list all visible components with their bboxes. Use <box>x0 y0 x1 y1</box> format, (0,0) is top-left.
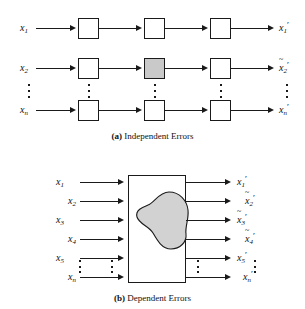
arrowhead-b-in-4 <box>118 236 124 242</box>
wire-b-out-4 <box>186 239 227 240</box>
arrowhead-b-in-2 <box>118 198 124 204</box>
output-label-b-2: ~x2′ <box>245 196 255 207</box>
arrowhead-a-r2-s0 <box>70 65 76 71</box>
stage-box-a-r1-c2 <box>144 18 165 39</box>
arrowhead-b-in-1 <box>118 179 124 185</box>
wire-b-in-5 <box>80 258 120 259</box>
stage-box-a-r2-c3 <box>210 58 231 79</box>
wire-a-r2-s3 <box>231 68 270 69</box>
caption-panel-b: (b) Dependent Errors <box>0 293 305 303</box>
dependency-blob <box>133 190 193 252</box>
output-label-a-n: xn′ <box>279 105 289 116</box>
caption-panel-a: (a) Independent Errors <box>0 131 305 141</box>
arrowhead-b-out-n <box>225 274 231 280</box>
wire-a-r2-s0 <box>36 68 72 69</box>
ellipsis-a-col0 <box>27 84 30 98</box>
input-label-b-4: x4 <box>68 234 76 245</box>
ellipsis-b-output-label <box>253 260 256 273</box>
stage-box-a-r2-c2-shaded <box>144 58 165 79</box>
arrowhead-a-rn-s3 <box>268 107 274 113</box>
arrowhead-b-in-5 <box>118 255 124 261</box>
input-label-a-2: x2 <box>20 63 28 74</box>
wire-b-in-4 <box>80 239 120 240</box>
wire-b-in-n <box>80 277 120 278</box>
output-label-a-1: x1′ <box>279 23 289 34</box>
input-label-b-2: x2 <box>68 196 76 207</box>
arrowhead-b-out-1 <box>225 179 231 185</box>
output-label-b-5: x5′ <box>237 253 247 264</box>
input-label-b-5: x5 <box>56 253 64 264</box>
stage-box-a-rn-c2 <box>144 100 165 121</box>
arrowhead-b-out-2 <box>225 198 231 204</box>
arrowhead-a-r1-s2 <box>202 25 208 31</box>
wire-a-r1-s3 <box>231 28 270 29</box>
arrowhead-a-rn-s1 <box>136 107 142 113</box>
stage-box-a-rn-c1 <box>78 100 99 121</box>
wire-a-rn-s0 <box>36 110 72 111</box>
arrowhead-b-in-3 <box>118 217 124 223</box>
wire-b-out-5 <box>186 258 227 259</box>
wire-a-r2-s2 <box>165 68 204 69</box>
stage-box-a-r2-c1 <box>78 58 99 79</box>
input-label-a-1: x1 <box>20 23 28 34</box>
arrowhead-b-out-3 <box>225 217 231 223</box>
stage-box-a-rn-c3 <box>210 100 231 121</box>
arrowhead-b-in-n <box>118 274 124 280</box>
ellipsis-b-output-wire <box>196 260 199 273</box>
output-label-b-n: xn′ <box>243 272 253 283</box>
stage-box-a-r1-c1 <box>78 18 99 39</box>
ellipsis-b-input-label <box>78 260 81 273</box>
wire-b-in-1 <box>80 182 120 183</box>
arrowhead-a-r2-s2 <box>202 65 208 71</box>
wire-b-out-n <box>186 277 227 278</box>
wire-b-in-3 <box>80 220 120 221</box>
input-label-b-3: x3 <box>56 215 64 226</box>
ellipsis-b-input-wire <box>110 260 113 273</box>
arrowhead-b-out-4 <box>225 236 231 242</box>
output-label-a-2: ~x2′ <box>279 63 289 74</box>
arrowhead-b-out-5 <box>225 255 231 261</box>
arrowhead-a-rn-s0 <box>70 107 76 113</box>
ellipsis-a-col2 <box>153 84 156 98</box>
wire-b-in-2 <box>80 201 120 202</box>
arrowhead-a-rn-s2 <box>202 107 208 113</box>
arrowhead-a-r1-s0 <box>70 25 76 31</box>
output-label-b-3: ~x3′ <box>237 215 247 226</box>
wire-a-rn-s3 <box>231 110 270 111</box>
ellipsis-a-col1 <box>87 84 90 98</box>
panel-dependent-errors: x1 x2 x3 x4 x5 xn <box>0 155 305 309</box>
panel-independent-errors: x1 x2 xn x1′ ~ <box>0 0 305 150</box>
ellipsis-a-col4 <box>285 84 288 98</box>
arrowhead-a-r1-s1 <box>136 25 142 31</box>
wire-a-r1-s2 <box>165 28 204 29</box>
input-label-b-n: xn <box>68 272 76 283</box>
input-label-b-1: x1 <box>56 177 64 188</box>
wire-a-rn-s2 <box>165 110 204 111</box>
output-label-b-1: x1′ <box>237 177 247 188</box>
wire-a-r1-s0 <box>36 28 72 29</box>
arrowhead-a-r2-s3 <box>268 65 274 71</box>
figure-error-models: x1 x2 xn x1′ ~ <box>0 0 305 309</box>
ellipsis-a-col3 <box>219 84 222 98</box>
arrowhead-a-r1-s3 <box>268 25 274 31</box>
output-label-b-4: ~x4′ <box>245 234 255 245</box>
wire-a-rn-s1 <box>99 110 138 111</box>
wire-b-out-1 <box>186 182 227 183</box>
wire-b-out-2 <box>186 201 227 202</box>
wire-a-r2-s1 <box>99 68 138 69</box>
stage-box-a-r1-c3 <box>210 18 231 39</box>
input-label-a-n: xn <box>20 105 28 116</box>
arrowhead-a-r2-s1 <box>136 65 142 71</box>
wire-b-out-3 <box>186 220 227 221</box>
wire-a-r1-s1 <box>99 28 138 29</box>
